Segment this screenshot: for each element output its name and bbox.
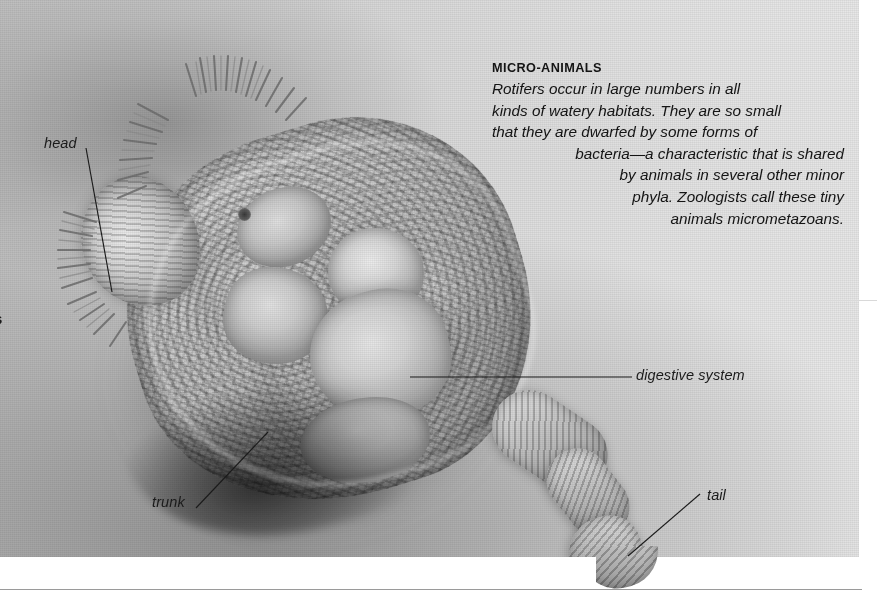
cilia-fringe [0,0,1,1]
tail-texture-2 [534,436,642,550]
caption-line-4: bacteria—a characteristic that is shared [492,143,844,165]
label-edge-fragment: s [0,310,2,327]
label-tail: tail [707,487,726,503]
tail-segment-1 [478,376,622,507]
faint-right-rule [806,300,877,301]
caption-line-1: Rotifers occur in large numbers in all [492,78,844,100]
organism-head-corona [60,158,220,326]
caption-line-2: kinds of watery habitats. They are so sm… [492,100,844,122]
tail-segment-2 [534,436,642,550]
caption-heading: MICRO-ANIMALS [492,60,823,75]
rotifer-micrograph-photo: MICRO-ANIMALS Rotifers occur in large nu… [0,0,859,557]
bottom-white-margin [0,557,877,600]
organ-digestive-gut [297,275,464,433]
organ-mastax [328,228,424,316]
label-trunk: trunk [152,494,185,510]
tail-tip-texture [596,546,667,592]
caption-line-3: that they are dwarfed by some forms of [492,121,844,143]
figure-page: MICRO-ANIMALS Rotifers occur in large nu… [0,0,877,600]
bottom-page-rule [0,589,862,590]
caption-line-7: animals micrometazoans. [492,208,844,230]
tail-texture-1 [478,376,622,507]
right-white-margin [859,0,877,557]
label-digestive-system: digestive system [636,367,745,383]
label-head: head [44,135,77,151]
tail-tip-overhang [596,546,668,592]
caption-line-6: phyla. Zoologists call these tiny [492,186,844,208]
tail-tip [596,546,667,592]
organ-sac-lower [295,389,435,490]
organism-dark-rim [95,255,504,557]
caption-line-5: by animals in several other minor [492,164,844,186]
organ-sac-left [215,258,337,374]
organism-tail-foot [488,398,660,557]
caption-block: MICRO-ANIMALS Rotifers occur in large nu… [492,60,844,229]
caption-body: Rotifers occur in large numbers in all k… [492,78,844,229]
organ-sac-upper [225,173,343,281]
organism-dark-speck [238,208,251,221]
head-texture [60,158,220,326]
